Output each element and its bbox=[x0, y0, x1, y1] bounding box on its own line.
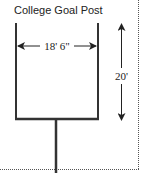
height-label: 20' bbox=[115, 70, 128, 82]
width-label: 18' 6" bbox=[44, 40, 70, 52]
goal-post-diagram: 18' 6" 20' bbox=[0, 0, 145, 173]
